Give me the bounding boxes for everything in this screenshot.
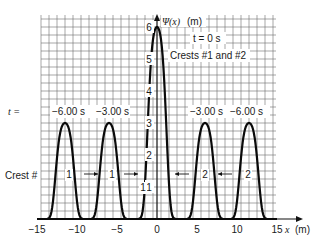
y-tick-label: 6 xyxy=(146,22,152,33)
crest-row-label: Crest # xyxy=(5,170,38,181)
x-tick-label: −10 xyxy=(69,224,86,235)
x-tick-label: 10 xyxy=(231,224,243,235)
x-tick-label: −15 xyxy=(29,224,46,235)
time-label-left-1: −6.00 s xyxy=(52,106,85,117)
x-axis-label: x xyxy=(284,224,290,235)
time-label-right-1: −3.00 s xyxy=(190,106,223,117)
x-tick-label: 0 xyxy=(154,224,160,235)
x-tick-label: 15 xyxy=(271,224,283,235)
x-axis-arrow-icon xyxy=(296,216,303,222)
arrow-right-icon xyxy=(94,172,98,176)
y-tick-label: 3 xyxy=(146,118,152,129)
y-tick-label: 2 xyxy=(146,150,152,161)
arrow-right-icon xyxy=(134,172,138,176)
y-axis-unit: (m) xyxy=(187,16,202,27)
arrow-left-icon xyxy=(218,172,222,176)
crests-label: Crests #1 and #2 xyxy=(170,50,247,61)
t-zero-label: t = 0 s xyxy=(193,33,221,44)
t-prefix: t = xyxy=(8,106,20,117)
x-axis-unit: (m) xyxy=(295,224,310,235)
crest-number: 1 xyxy=(140,182,146,193)
y-axis-arrow-icon xyxy=(154,14,160,21)
y-tick-label: 5 xyxy=(146,54,152,65)
crest-number: 1 xyxy=(109,169,115,180)
y-tick-label: 1 xyxy=(146,182,152,193)
y-axis-label: Ψ(x) xyxy=(162,16,181,28)
crest-number: 2 xyxy=(245,169,251,180)
y-tick-label: 4 xyxy=(146,86,152,97)
time-label-left-2: −3.00 s xyxy=(96,106,129,117)
x-tick-label: 5 xyxy=(194,224,200,235)
crest-number: 2 xyxy=(202,169,208,180)
crest-number: 1 xyxy=(66,169,72,180)
time-label-right-2: −6.00 s xyxy=(230,106,263,117)
x-tick-label: −5 xyxy=(111,224,123,235)
wave-crest-chart: 123456−15−10−5051015x(m)Ψ(x)(m)t = 0 sCr… xyxy=(0,0,318,244)
